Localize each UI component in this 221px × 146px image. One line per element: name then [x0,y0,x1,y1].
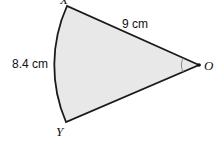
sector-diagram: X Y O 9 cm 8.4 cm [0,0,221,146]
point-label-y: Y [56,124,65,139]
radius-label: 9 cm [122,17,148,31]
center-point-dot [197,63,201,67]
point-label-x: X [59,0,69,7]
point-label-o: O [204,58,214,73]
arc-length-label: 8.4 cm [12,57,48,71]
